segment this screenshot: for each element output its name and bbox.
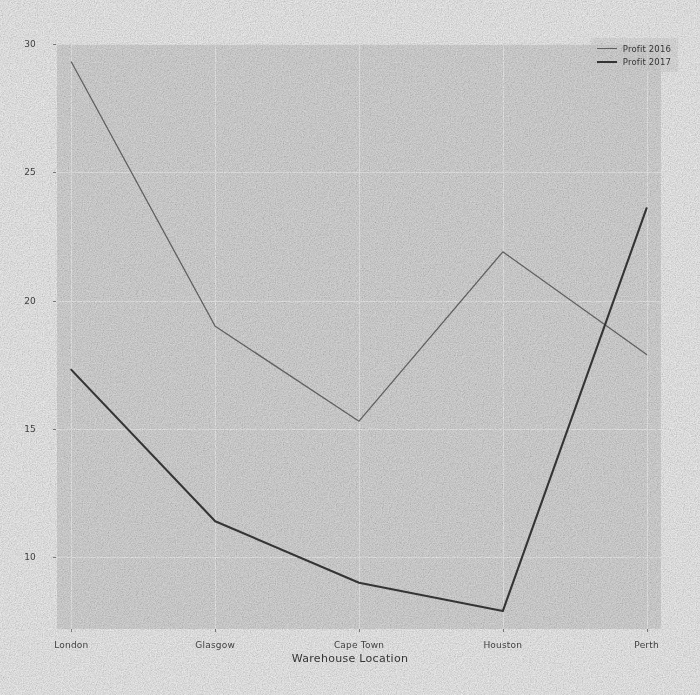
legend: Profit 2016 Profit 2017 — [591, 38, 678, 72]
series-line-1 — [71, 62, 646, 421]
x-tick-label: Houston — [483, 640, 522, 650]
legend-label-profit-2016: Profit 2016 — [623, 44, 671, 54]
line-plot — [57, 44, 661, 629]
y-tick-mark — [53, 557, 56, 558]
legend-swatch-profit-2017 — [597, 61, 617, 63]
legend-swatch-profit-2016 — [597, 48, 617, 49]
x-axis-label: Warehouse Location — [0, 652, 700, 665]
series-line-2 — [71, 208, 646, 611]
legend-item-1: Profit 2017 — [597, 55, 671, 68]
y-tick-label: 30 — [24, 39, 36, 49]
x-tick-mark — [503, 629, 504, 632]
y-tick-label: 10 — [24, 552, 36, 562]
y-tick-label: 15 — [24, 424, 36, 434]
x-tick-mark — [647, 629, 648, 632]
y-tick-mark — [53, 429, 56, 430]
x-tick-label: Perth — [634, 640, 659, 650]
y-tick-mark — [53, 301, 56, 302]
x-tick-label: London — [54, 640, 88, 650]
x-tick-mark — [215, 629, 216, 632]
y-tick-mark — [53, 44, 56, 45]
figure: 1015202530 LondonGlasgowCape TownHouston… — [0, 0, 700, 695]
plot-area — [57, 44, 661, 629]
y-tick-mark — [53, 172, 56, 173]
y-tick-label: 20 — [24, 296, 36, 306]
x-tick-label: Cape Town — [334, 640, 384, 650]
x-tick-label: Glasgow — [195, 640, 235, 650]
y-tick-label: 25 — [24, 167, 36, 177]
x-tick-mark — [359, 629, 360, 632]
x-tick-mark — [71, 629, 72, 632]
legend-item-0: Profit 2016 — [597, 42, 671, 55]
legend-label-profit-2017: Profit 2017 — [623, 57, 671, 67]
